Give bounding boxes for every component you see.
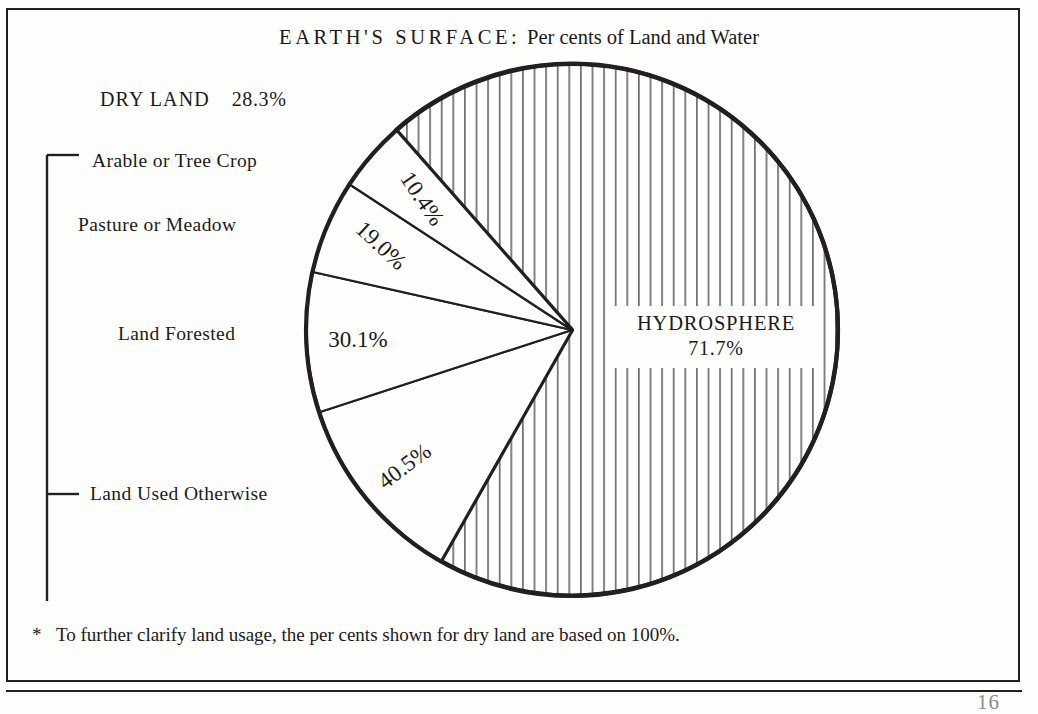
footnote-marker: * xyxy=(32,622,42,649)
label-dry-land: DRY LAND28.3% xyxy=(100,88,286,111)
title-spaced-part: EARTH'S SURFACE xyxy=(279,26,511,48)
label-hydrosphere: HYDROSPHERE 71.7% xyxy=(610,306,822,368)
label-hydrosphere-pct: 71.7% xyxy=(616,336,816,362)
title-rest-part: : Per cents of Land and Water xyxy=(511,26,759,48)
label-dry-land-pct: 28.3% xyxy=(232,88,287,110)
figure-page: EARTH'S SURFACE: Per cents of Land and W… xyxy=(0,0,1038,714)
figure-frame-bottom-rule xyxy=(6,690,1022,692)
footnote-text: To further clarify land usage, the per c… xyxy=(56,622,792,649)
page-title: EARTH'S SURFACE: Per cents of Land and W… xyxy=(0,26,1038,49)
label-arable-or-tree-crop: Arable or Tree Crop xyxy=(92,150,257,172)
label-dry-land-text: DRY LAND xyxy=(100,88,210,110)
label-hydrosphere-name: HYDROSPHERE xyxy=(616,310,816,336)
label-land-forested: Land Forested xyxy=(118,323,235,345)
label-land-used-otherwise: Land Used Otherwise xyxy=(90,483,268,505)
label-pasture-or-meadow: Pasture or Meadow xyxy=(78,214,236,236)
footnote: * To further clarify land usage, the per… xyxy=(32,622,792,649)
page-number: 16 xyxy=(977,690,1000,714)
